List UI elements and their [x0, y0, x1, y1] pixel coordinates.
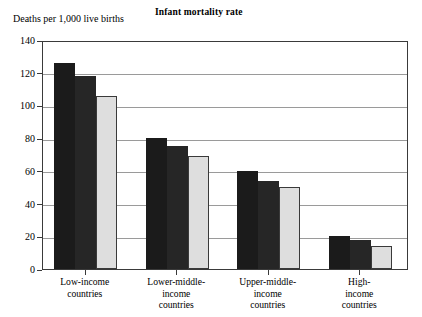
x-axis-label-line: High-	[299, 276, 419, 288]
x-tick-mark	[359, 270, 360, 275]
y-tick-label: 140	[9, 36, 35, 46]
bar	[54, 63, 75, 269]
x-tick-mark	[268, 270, 269, 275]
bar	[371, 246, 392, 269]
y-tick-label: 20	[9, 232, 35, 242]
x-tick-mark	[176, 270, 177, 275]
bar-group	[329, 42, 392, 269]
bar	[329, 236, 350, 269]
bar-group	[146, 42, 209, 269]
y-tick-label: 120	[9, 69, 35, 79]
bar	[96, 96, 117, 269]
x-axis-label-line: income	[299, 288, 419, 300]
bar	[279, 187, 300, 269]
bar-group	[54, 42, 117, 269]
bar-group	[237, 42, 300, 269]
y-tick-label: 100	[9, 101, 35, 111]
y-tick-label: 60	[9, 167, 35, 177]
bar	[75, 76, 96, 269]
bar	[350, 240, 371, 269]
x-axis-label: High-incomecountries	[299, 276, 419, 311]
bar	[258, 181, 279, 269]
y-axis: 020406080100120140	[0, 0, 42, 317]
infant-mortality-bar-chart: Deaths per 1,000 live births Infant mort…	[0, 0, 422, 317]
bar	[167, 146, 188, 269]
y-tick-label: 0	[9, 265, 35, 275]
plot-area	[42, 41, 408, 270]
y-tick-label: 40	[9, 200, 35, 210]
bar	[237, 171, 258, 269]
y-tick-label: 80	[9, 134, 35, 144]
bar	[146, 138, 167, 269]
chart-title: Infant mortality rate	[155, 6, 315, 18]
bar	[188, 156, 209, 269]
x-tick-mark	[85, 270, 86, 275]
x-axis-label-line: countries	[299, 299, 419, 311]
